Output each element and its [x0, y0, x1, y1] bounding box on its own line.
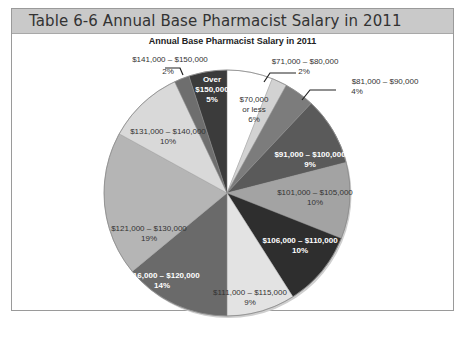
slice-percent: 10%	[307, 198, 323, 207]
slice-range: $106,000 – $110,000	[262, 236, 338, 245]
slice-percent: 2%	[162, 67, 174, 76]
slice-range: $101,000 – $105,000	[277, 188, 353, 197]
slice-label: $141,000 – $150,0002%	[132, 55, 208, 76]
slice-label: $71,000 – $80,0002%	[264, 57, 339, 82]
slice-range: $131,000 – $140,000	[130, 127, 206, 136]
slice-percent: 9%	[304, 160, 316, 169]
slice-percent: 14%	[154, 281, 170, 290]
slice-percent: 6%	[248, 115, 260, 124]
slice-label: $81,000 – $90,0004%	[302, 77, 419, 100]
slice-percent: 9%	[244, 298, 256, 307]
slice-range: $71,000 – $80,000	[272, 57, 339, 66]
leader-line	[302, 90, 336, 100]
slice-percent: 10%	[292, 246, 308, 255]
slice-range: $70,000	[240, 95, 269, 104]
slice-range: or less	[242, 105, 266, 114]
slice-percent: 5%	[206, 95, 218, 104]
pie-chart: $70,000or less6%$71,000 – $80,0002%$81,0…	[0, 0, 464, 339]
slice-percent: 2%	[298, 67, 310, 76]
slice-percent: 4%	[351, 87, 363, 96]
slice-range: $116,000 – $120,000	[124, 271, 200, 280]
slice-range: $91,000 – $100,000	[274, 150, 346, 159]
slice-range: Over	[203, 75, 221, 84]
slice-range: $121,000 – $130,000	[111, 224, 187, 233]
slice-range: $111,000 – $115,000	[213, 288, 287, 297]
slice-range: $150,000	[195, 85, 229, 94]
slice-range: $81,000 – $90,000	[352, 77, 419, 86]
slice-range: $141,000 – $150,000	[132, 55, 208, 64]
slice-percent: 10%	[160, 137, 176, 146]
slice-percent: 19%	[141, 234, 157, 243]
